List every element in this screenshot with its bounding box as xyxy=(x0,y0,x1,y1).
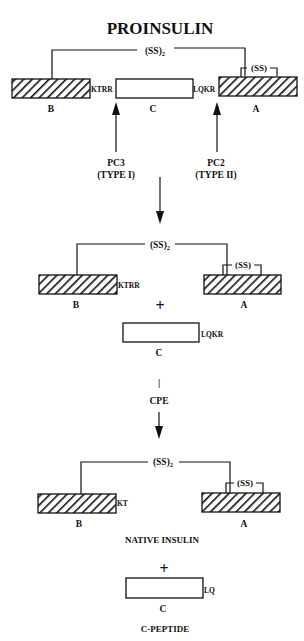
intermediate-structure: (SS)2 (SS) KTRR B A + LQKR C xyxy=(39,240,281,358)
b-chain-label: B xyxy=(48,104,55,114)
a-chain-block xyxy=(204,275,281,294)
c-chain-label: C xyxy=(150,104,157,114)
b-chain-label: B xyxy=(73,300,80,310)
disulfide-bond-line-right xyxy=(179,462,230,493)
a-chain-label: A xyxy=(241,519,248,529)
a-chain-label: A xyxy=(241,300,248,310)
disulfide-bond-line-right xyxy=(174,48,245,76)
intra-disulfide-line-right xyxy=(256,483,263,493)
c-chain-label: C xyxy=(156,348,163,358)
b-chain-tail-label: KTRR xyxy=(118,281,140,290)
a-chain-block xyxy=(219,77,297,96)
proinsulin-structure: (SS)2 (SS) B KTRR C LQKR A xyxy=(12,46,297,114)
c-peptide-label: C-PEPTIDE xyxy=(141,624,190,634)
down-arrow-icon xyxy=(156,211,164,224)
pc2-arrowhead-icon xyxy=(213,102,221,115)
b-chain-tail-label: KT xyxy=(117,499,128,508)
cleavage-arrows xyxy=(112,102,221,152)
c-peptide-tail-label: LQKR xyxy=(201,330,224,339)
down-arrow-icon xyxy=(155,426,163,439)
cpe-separator: | xyxy=(158,377,160,388)
b-chain-block xyxy=(38,494,116,513)
pc2-type-label: (TYPE II) xyxy=(195,170,236,181)
pc2-enzyme-label: PC2 xyxy=(207,158,225,168)
inter-chain-disulfide-label: (SS)2 xyxy=(145,46,165,57)
pc3-arrowhead-icon xyxy=(112,102,120,115)
intra-chain-disulfide-label: (SS) xyxy=(235,260,251,270)
c-peptide-tail-label: LQ xyxy=(204,586,215,595)
intra-disulfide-line-left xyxy=(241,68,247,77)
c-peptide-block xyxy=(123,323,199,342)
native-insulin-structure: (SS)2 (SS) KT B A NATIVE INSULIN xyxy=(38,457,280,545)
c-chain-label: C xyxy=(160,604,167,614)
plus-sign: + xyxy=(155,297,164,314)
a-chain-label: A xyxy=(253,104,260,114)
c-peptide-block xyxy=(126,578,203,598)
inter-chain-disulfide-label: (SS)2 xyxy=(150,240,170,251)
c-peptide-structure: LQ C C-PEPTIDE xyxy=(126,578,215,634)
a-chain-block xyxy=(202,493,280,512)
disulfide-bond-line-right xyxy=(175,244,227,275)
b-chain-block xyxy=(39,275,117,294)
disulfide-bond-line-left xyxy=(81,462,148,494)
c-peptide-block xyxy=(116,79,193,98)
b-chain-label: B xyxy=(76,519,83,529)
pc3-type-label: (TYPE I) xyxy=(97,170,135,181)
disulfide-bond-line-left xyxy=(77,244,145,275)
plus-sign: + xyxy=(159,560,168,577)
ca-junction-label: LQKR xyxy=(193,85,216,94)
cpe-enzyme-label: CPE xyxy=(150,396,169,406)
b-chain-block xyxy=(12,79,90,98)
native-insulin-label: NATIVE INSULIN xyxy=(125,535,200,545)
disulfide-bond-line-left xyxy=(52,50,137,79)
diagram-title: PROINSULIN xyxy=(107,19,214,38)
proinsulin-processing-diagram: PROINSULIN (SS)2 (SS) B KTRR C LQKR A PC… xyxy=(0,0,304,641)
inter-chain-disulfide-label: (SS)2 xyxy=(153,457,173,468)
intra-disulfide-line-right xyxy=(254,265,261,275)
bc-junction-label: KTRR xyxy=(91,85,113,94)
intra-disulfide-line-right xyxy=(270,68,277,76)
intra-chain-disulfide-label: (SS) xyxy=(251,63,267,73)
intra-chain-disulfide-label: (SS) xyxy=(237,478,253,488)
pc3-enzyme-label: PC3 xyxy=(107,158,125,168)
